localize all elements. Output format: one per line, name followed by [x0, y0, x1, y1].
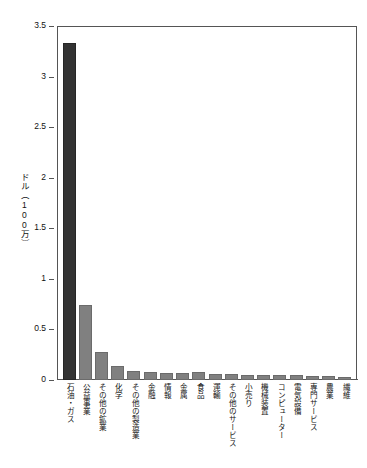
bar[interactable]: [209, 374, 222, 380]
x-label-slot: 石油・ガス: [61, 383, 77, 463]
x-label-slot: 金融: [142, 383, 158, 463]
y-tick-label: 0: [41, 374, 46, 384]
bar[interactable]: [127, 371, 140, 380]
bar-slot: [158, 26, 174, 380]
bar-slot: [191, 26, 207, 380]
x-label-slot: コンピューター: [272, 383, 288, 463]
x-tick-label: 石油・ガス: [65, 383, 73, 423]
bar[interactable]: [257, 375, 270, 380]
y-tick-label: 1: [41, 273, 46, 283]
x-label-slot: その他のサービス: [223, 383, 239, 463]
bar-slot: [93, 26, 109, 380]
x-label-slot: 情報: [158, 383, 174, 463]
bar[interactable]: [306, 376, 319, 380]
bar-slot: [77, 26, 93, 380]
y-tick-mark: [49, 127, 54, 128]
y-tick-label: 3: [41, 71, 46, 81]
x-label-slot: その他の製造業: [126, 383, 142, 463]
x-label-slot: 公益事業: [77, 383, 93, 463]
bar[interactable]: [290, 375, 303, 380]
x-tick-label: その他のサービス: [227, 383, 235, 447]
x-label-slot: 電気設備: [288, 383, 304, 463]
bar-slot: [61, 26, 77, 380]
bar-slot: [321, 26, 337, 380]
bar[interactable]: [241, 375, 254, 380]
x-tick-label: 運輸: [211, 383, 219, 399]
y-tick-label: 3.5: [34, 20, 46, 30]
x-label-slot: 金属: [175, 383, 191, 463]
bar-slot: [337, 26, 353, 380]
x-axis-labels: 石油・ガス公益事業その他の鉱業化学その他の製造業金融情報金属食品運輸その他のサー…: [57, 383, 357, 463]
bar[interactable]: [273, 375, 286, 380]
bar-slot: [175, 26, 191, 380]
x-tick-label: 金融: [146, 383, 154, 399]
bar-slot: [304, 26, 320, 380]
x-tick-label: コンピューター: [276, 383, 284, 439]
bars-container: [57, 26, 357, 380]
x-label-slot: 化学: [110, 383, 126, 463]
x-tick-label: 農業: [324, 383, 332, 399]
bar[interactable]: [111, 366, 124, 380]
x-label-slot: その他の鉱業: [93, 383, 109, 463]
x-tick-label: 化学: [114, 383, 122, 399]
x-tick-label: 専門サービス: [308, 383, 316, 431]
y-tick-mark: [49, 329, 54, 330]
bar[interactable]: [144, 372, 157, 380]
x-label-slot: 食品: [191, 383, 207, 463]
y-tick-mark: [49, 380, 54, 381]
bar[interactable]: [322, 376, 335, 380]
bar[interactable]: [160, 373, 173, 380]
bar-slot: [142, 26, 158, 380]
x-tick-label: 金属: [178, 383, 186, 399]
bar-slot: [207, 26, 223, 380]
bar-slot: [126, 26, 142, 380]
y-tick-mark: [49, 279, 54, 280]
x-tick-label: 繊維: [341, 383, 349, 399]
y-tick-label: 0.5: [34, 323, 46, 333]
bar[interactable]: [192, 372, 205, 380]
x-tick-label: 食品: [195, 383, 203, 399]
y-tick-label: 2: [41, 172, 46, 182]
y-tick-mark: [49, 178, 54, 179]
x-tick-label: 小売り: [243, 383, 251, 407]
x-label-slot: 小売り: [239, 383, 255, 463]
bar-slot: [239, 26, 255, 380]
bar[interactable]: [338, 377, 351, 380]
x-tick-label: 電気設備: [292, 383, 300, 415]
y-tick-mark: [49, 26, 54, 27]
x-tick-label: 情報: [162, 383, 170, 399]
bar-slot: [110, 26, 126, 380]
bar-chart: ドル（100万） 3.532.521.510.50 石油・ガス公益事業その他の鉱…: [0, 0, 367, 468]
x-label-slot: 運輸: [207, 383, 223, 463]
bar[interactable]: [225, 374, 238, 380]
x-tick-label: 公益事業: [81, 383, 89, 415]
y-tick-label: 1.5: [34, 222, 46, 232]
bar-slot: [223, 26, 239, 380]
bar[interactable]: [176, 373, 189, 380]
bar[interactable]: [79, 305, 92, 380]
x-label-slot: 機械装置: [256, 383, 272, 463]
bar[interactable]: [95, 352, 108, 380]
bar[interactable]: [63, 43, 76, 380]
x-label-slot: 繊維: [337, 383, 353, 463]
y-tick-mark: [49, 77, 54, 78]
x-tick-label: その他の製造業: [130, 383, 138, 439]
y-tick-label: 2.5: [34, 121, 46, 131]
x-label-slot: 農業: [321, 383, 337, 463]
bar-slot: [272, 26, 288, 380]
x-tick-label: 機械装置: [260, 383, 268, 415]
x-label-slot: 専門サービス: [304, 383, 320, 463]
y-tick-mark: [49, 228, 54, 229]
bar-slot: [256, 26, 272, 380]
bar-slot: [288, 26, 304, 380]
y-axis-title: ドル（100万）: [14, 150, 34, 270]
x-tick-label: その他の鉱業: [97, 383, 105, 431]
